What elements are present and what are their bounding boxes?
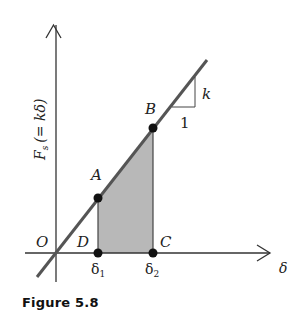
figure-caption: Figure 5.8 [22, 295, 99, 310]
tick-label-delta2: δ2 [145, 261, 159, 279]
y-axis-arrowhead [46, 25, 61, 38]
svg-text:Fs(= kδ): Fs(= kδ) [32, 99, 50, 161]
label-A: A [89, 166, 102, 184]
label-C: C [160, 233, 172, 251]
slope-rise-label: k [202, 85, 211, 103]
label-D: D [76, 233, 89, 251]
x-axis-label: δ [279, 260, 287, 276]
slope-run-label: 1 [180, 114, 190, 132]
tick-label-delta1: δ1 [91, 261, 105, 279]
point-A [94, 194, 103, 203]
force-deflection-diagram: A B C D O k 1 δ1 δ2 δ Fs(= kδ) [0, 0, 307, 319]
label-B: B [144, 100, 156, 118]
origin-label: O [36, 233, 48, 251]
y-axis-label: Fs(= kδ) [32, 99, 50, 161]
point-D [94, 249, 103, 258]
point-C [149, 249, 158, 258]
point-B [149, 124, 158, 133]
